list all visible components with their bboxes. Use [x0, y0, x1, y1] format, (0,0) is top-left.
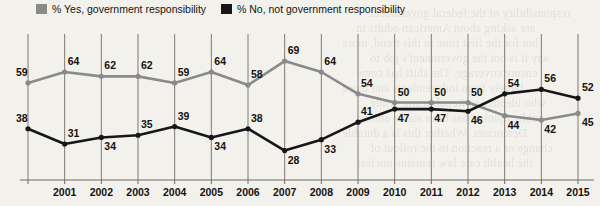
data-label: 47	[398, 112, 410, 124]
data-label: 33	[324, 143, 336, 155]
data-point	[465, 109, 470, 114]
data-label: 39	[178, 110, 190, 122]
data-point	[209, 69, 214, 74]
x-axis-label: 2009	[346, 186, 370, 198]
line-chart: 2001200220032004200520062007200820092010…	[0, 22, 600, 206]
data-point	[172, 80, 177, 85]
data-label: 34	[104, 140, 116, 152]
x-axis-label: 2003	[126, 186, 150, 198]
data-point	[62, 141, 67, 146]
data-label: 59	[16, 66, 28, 78]
data-label: 35	[141, 118, 153, 130]
x-axis-label: 2011	[420, 186, 443, 198]
x-axis-label: 2015	[566, 186, 590, 198]
data-label: 31	[68, 127, 80, 139]
x-axis-label: 2002	[90, 186, 114, 198]
data-label: 50	[398, 86, 410, 98]
data-label: 34	[214, 140, 226, 152]
data-point	[245, 82, 250, 87]
x-axis-label: 2010	[383, 186, 407, 198]
legend-item-yes: % Yes, government responsibility	[36, 4, 206, 15]
data-label: 50	[434, 86, 446, 98]
data-point	[319, 137, 324, 142]
data-label: 44	[508, 119, 520, 131]
data-point	[99, 135, 104, 140]
data-label: 38	[16, 112, 28, 124]
x-axis-label: 2014	[530, 186, 554, 198]
data-point	[465, 100, 470, 105]
x-axis-label: 2005	[200, 186, 224, 198]
data-point	[355, 91, 360, 96]
data-point	[135, 133, 140, 138]
data-label: 38	[251, 112, 263, 124]
data-point	[135, 74, 140, 79]
data-point	[62, 69, 67, 74]
data-point	[575, 96, 580, 101]
data-label: 45	[582, 116, 594, 128]
data-label: 54	[361, 77, 373, 89]
data-point	[99, 74, 104, 79]
data-point	[209, 135, 214, 140]
data-label: 64	[324, 55, 336, 67]
data-label: 62	[104, 59, 116, 71]
data-point	[539, 117, 544, 122]
data-point	[575, 111, 580, 116]
data-point	[392, 100, 397, 105]
chart-svg: 2001200220032004200520062007200820092010…	[0, 22, 600, 206]
data-label: 47	[434, 112, 446, 124]
legend-item-no: % No, not government responsibility	[221, 4, 405, 15]
legend-label-yes: % Yes, government responsibility	[52, 4, 206, 15]
data-label: 64	[68, 55, 80, 67]
data-label: 69	[288, 44, 300, 56]
x-axis-label: 2007	[273, 186, 297, 198]
data-label: 50	[471, 86, 483, 98]
x-axis-label: 2013	[493, 186, 517, 198]
data-point	[392, 106, 397, 111]
data-point	[429, 106, 434, 111]
data-point	[25, 126, 30, 131]
x-axis-label: 2004	[163, 186, 187, 198]
legend-label-no: % No, not government responsibility	[237, 4, 405, 15]
legend-swatch-no	[221, 4, 232, 14]
data-point	[539, 87, 544, 92]
data-label: 54	[508, 77, 520, 89]
data-label: 64	[214, 55, 226, 67]
data-label: 62	[141, 59, 153, 71]
data-label: 46	[471, 114, 483, 126]
data-label: 52	[582, 81, 594, 93]
data-label: 59	[178, 66, 190, 78]
x-axis-label: 2008	[310, 186, 334, 198]
data-label: 41	[361, 105, 373, 117]
data-point	[245, 126, 250, 131]
x-axis-label: 2012	[456, 186, 480, 198]
data-point	[355, 120, 360, 125]
data-point	[502, 113, 507, 118]
chart-legend: % Yes, government responsibility % No, n…	[0, 0, 600, 22]
data-label: 28	[288, 154, 300, 166]
data-point	[319, 69, 324, 74]
data-point	[282, 148, 287, 153]
data-point	[25, 80, 30, 85]
data-label: 42	[544, 123, 556, 135]
x-axis-label: 2006	[236, 186, 260, 198]
data-label: 56	[544, 72, 556, 84]
data-point	[429, 100, 434, 105]
data-point	[502, 91, 507, 96]
x-axis-label: 2001	[53, 186, 77, 198]
data-point	[282, 58, 287, 63]
data-point	[172, 124, 177, 129]
data-label: 58	[251, 68, 263, 80]
legend-swatch-yes	[36, 4, 47, 14]
